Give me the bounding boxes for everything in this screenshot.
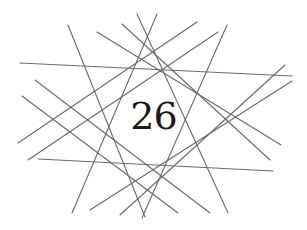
chapter-ornament: 26 — [0, 0, 307, 230]
ornament-line — [120, 65, 285, 215]
ornament-line — [38, 159, 273, 171]
chapter-number: 26 — [0, 96, 307, 136]
ornament-line — [122, 24, 270, 160]
